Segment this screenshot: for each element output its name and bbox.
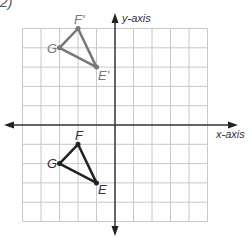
vertex-label-e-prime: E' [98, 68, 109, 83]
vertex-label-f: F [75, 128, 83, 143]
vertex-label-g: G [47, 156, 57, 171]
vertex-label-g-prime: G [47, 41, 57, 56]
coordinate-diagram: 2) y-axis x-axis F' G E' F G E [0, 0, 252, 237]
x-axis-label: x-axis [216, 128, 245, 140]
y-axis-label: y-axis [122, 12, 151, 24]
coordinate-grid [0, 0, 252, 237]
vertex-label-e: E [98, 182, 107, 197]
vertex-label-f-prime: F' [74, 12, 84, 27]
y-axis-up-arrow-icon [112, 13, 119, 23]
vertex-point [57, 45, 62, 50]
x-axis-left-arrow-icon [4, 122, 14, 129]
y-axis-down-arrow-icon [112, 226, 119, 236]
vertex-point [57, 161, 62, 166]
